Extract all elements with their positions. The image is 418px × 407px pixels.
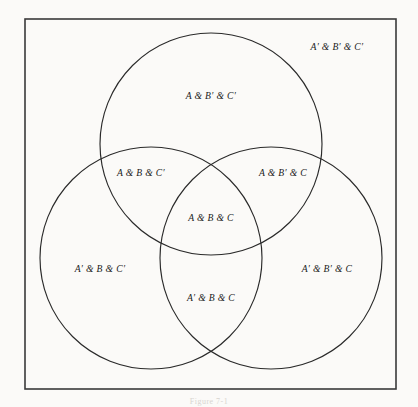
region-label-a-b-c: A & B & C xyxy=(187,212,234,223)
venn-diagram-figure: A & B′ & C′ A′ & B′ & C′ A & B & C′ A & … xyxy=(0,0,418,407)
venn-diagram-canvas: A & B′ & C′ A′ & B′ & C′ A & B & C′ A & … xyxy=(0,0,418,407)
region-label-a-bp-cp: A & B′ & C′ xyxy=(185,90,237,101)
region-label-ap-bp-c: A′ & B′ & C xyxy=(301,263,353,274)
circle-b xyxy=(40,147,262,369)
figure-caption: Figure 7-1 xyxy=(0,397,418,406)
region-label-a-b-cp: A & B & C′ xyxy=(116,167,166,178)
region-label-ap-b-cp: A′ & B & C′ xyxy=(74,263,126,274)
region-label-a-bp-c: A & B′ & C xyxy=(258,167,307,178)
region-label-ap-bp-cp: A′ & B′ & C′ xyxy=(309,41,364,52)
universe-rectangle xyxy=(25,19,396,389)
circle-c xyxy=(160,147,382,369)
region-label-ap-b-c: A′ & B & C xyxy=(186,292,235,303)
